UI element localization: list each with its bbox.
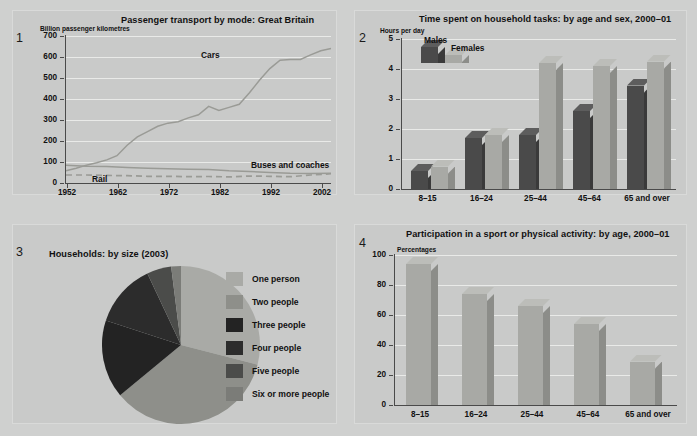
bar-top: [431, 160, 455, 167]
pie-legend-swatch: [226, 295, 243, 309]
pie-legend-row: Six or more people: [226, 387, 329, 401]
x-tick-label: 16–24: [448, 410, 504, 419]
bar-face: [406, 264, 431, 405]
pie-legend-label: One person: [252, 274, 300, 284]
panel-4-sport-participation: 4 Participation in a sport or physical a…: [354, 224, 687, 424]
pie-legend-label: Four people: [252, 343, 301, 353]
bar-side: [502, 135, 509, 189]
bar-participation-4: [630, 355, 662, 406]
pie-legend-row: Three people: [226, 318, 305, 332]
bar-face: [462, 294, 487, 405]
x-tick-label: 25–44: [504, 410, 560, 419]
pie-legend-row: One person: [226, 272, 300, 286]
bar-face: [519, 135, 536, 189]
bar-side: [487, 294, 494, 405]
pie-legend-label: Two people: [252, 297, 299, 307]
pie-legend-swatch: [226, 272, 243, 286]
x-tick-label: 65 and over: [613, 194, 681, 203]
pie-legend-row: Five people: [226, 364, 299, 378]
pie-legend-row: Two people: [226, 295, 299, 309]
bar-top: [518, 299, 550, 306]
bar-top: [406, 257, 438, 264]
x-tick-label: 16–24: [456, 194, 507, 203]
panel-3-households-by-size: 3 Households: by size (2003) One personT…: [12, 224, 337, 424]
bar-participation-0: [406, 257, 438, 405]
pie-legend-label: Five people: [252, 366, 299, 376]
pie-legend-swatch: [226, 341, 243, 355]
pie-legend-label: Three people: [252, 320, 305, 330]
pie-legend-swatch: [226, 387, 243, 401]
bar-face: [421, 47, 438, 63]
line-series-cars: [66, 49, 331, 171]
x-tick-label: 65 and over: [612, 410, 684, 419]
panel-1-passenger-transport: 1 Passenger transport by mode: Great Bri…: [12, 10, 337, 195]
series-label-buses: Buses and coaches: [251, 160, 329, 170]
x-tick-label: 45–64: [564, 194, 615, 203]
bar-side: [438, 47, 445, 63]
bar-females-1: [485, 128, 509, 189]
bar-face: [574, 324, 599, 405]
bar-face: [630, 362, 655, 406]
bar-top: [462, 287, 494, 294]
bar-top: [630, 355, 662, 362]
panel-4-bars: [355, 225, 688, 425]
bar-side: [599, 324, 606, 405]
bar-side: [448, 167, 455, 190]
panel-2-household-tasks: 2 Time spent on household tasks: by age …: [354, 10, 687, 195]
bar-participation-1: [462, 287, 494, 405]
bar-face: [573, 111, 590, 189]
bar-top: [574, 317, 606, 324]
pie-legend-swatch: [226, 318, 243, 332]
bar-face: [411, 171, 428, 189]
pie-legend-swatch: [226, 364, 243, 378]
bar-side: [462, 55, 469, 63]
series-label-rail: Rail: [92, 174, 107, 184]
bar-side: [431, 264, 438, 405]
bar-side: [543, 306, 550, 405]
bar-participation-2: [518, 299, 550, 405]
panel-2-legend: [355, 11, 688, 91]
bar-face: [518, 306, 543, 405]
x-tick-label: 8–15: [402, 194, 453, 203]
legend-label-females: Females: [451, 43, 485, 53]
x-tick-label: 25–44: [510, 194, 561, 203]
bar-participation-3: [574, 317, 606, 405]
bar-females-0: [431, 160, 455, 190]
bar-face: [627, 86, 644, 190]
bar-face: [445, 55, 462, 63]
series-label-cars: Cars: [201, 50, 220, 60]
pie-legend-label: Six or more people: [252, 389, 329, 399]
bar-top: [485, 128, 509, 135]
legend-label-males: Males: [424, 35, 447, 45]
pie-legend: One personTwo peopleThree peopleFour peo…: [13, 225, 338, 425]
pie-legend-row: Four people: [226, 341, 301, 355]
x-tick-label: 8–15: [392, 410, 448, 419]
bar-side: [655, 362, 662, 406]
bar-face: [431, 167, 448, 190]
bar-face: [485, 135, 502, 189]
bar-face: [465, 138, 482, 189]
x-tick-label: 45–64: [560, 410, 616, 419]
figure-sheet: 1 Passenger transport by mode: Great Bri…: [0, 0, 697, 436]
